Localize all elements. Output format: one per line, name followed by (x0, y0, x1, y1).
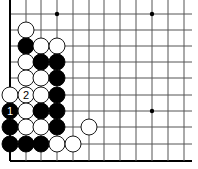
black-stone-icon (33, 103, 49, 119)
white-stone-icon (81, 119, 97, 135)
white-stone-icon (49, 136, 65, 152)
black-stone (33, 103, 49, 119)
go-board: 21 (0, 0, 198, 169)
black-stone-icon (33, 136, 49, 152)
black-stone (49, 119, 65, 135)
white-stone (2, 87, 18, 103)
black-stone-icon (49, 54, 65, 70)
black-stone-icon (2, 136, 18, 152)
white-stone-icon (18, 103, 34, 119)
black-stone (49, 103, 65, 119)
white-stone (18, 22, 34, 38)
white-stone (33, 87, 49, 103)
black-stone: 1 (2, 103, 18, 119)
white-stone-icon (18, 54, 34, 70)
black-stone-icon (18, 136, 34, 152)
white-stone-icon (33, 119, 49, 135)
white-stone (49, 136, 65, 152)
black-stone (49, 70, 65, 86)
white-stone (18, 103, 34, 119)
star-point-icon (55, 12, 59, 16)
white-stone: 2 (18, 87, 34, 103)
white-stone-icon (49, 38, 65, 54)
white-stone (49, 38, 65, 54)
star-point-icon (150, 12, 154, 16)
black-stone-icon (49, 87, 65, 103)
white-stone-icon (18, 70, 34, 86)
black-stone (18, 38, 34, 54)
white-stone (81, 119, 97, 135)
black-stone (49, 87, 65, 103)
stones: 21 (2, 22, 97, 152)
white-stone (33, 119, 49, 135)
white-stone-icon (18, 119, 34, 135)
star-point-icon (150, 109, 154, 113)
black-stone (49, 54, 65, 70)
white-stone-icon (65, 136, 81, 152)
black-stone (18, 136, 34, 152)
white-stone-icon (33, 70, 49, 86)
white-stone (33, 70, 49, 86)
white-stone-icon (33, 38, 49, 54)
black-stone-icon (49, 70, 65, 86)
white-stone (18, 70, 34, 86)
black-stone (33, 54, 49, 70)
black-stone-icon (49, 119, 65, 135)
black-stone-icon (49, 103, 65, 119)
white-stone-icon (33, 87, 49, 103)
black-stone (2, 119, 18, 135)
white-stone-icon (2, 87, 18, 103)
white-stone (33, 38, 49, 54)
black-stone-icon (18, 38, 34, 54)
black-stone-icon (33, 54, 49, 70)
black-stone-icon (2, 119, 18, 135)
black-stone (33, 136, 49, 152)
white-stone (18, 54, 34, 70)
white-stone (65, 136, 81, 152)
white-stone (18, 119, 34, 135)
move-number-label: 2 (23, 89, 29, 101)
move-number-label: 1 (7, 105, 13, 117)
black-stone (2, 136, 18, 152)
white-stone-icon (18, 22, 34, 38)
